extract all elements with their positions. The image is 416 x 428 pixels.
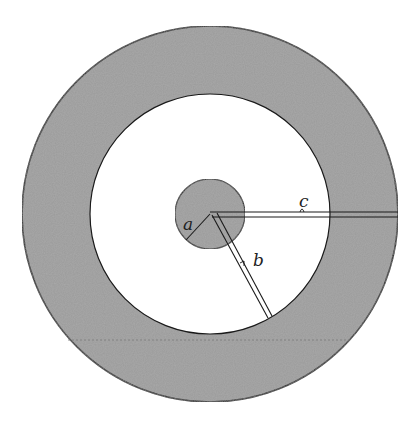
label-c: c <box>299 191 309 211</box>
concentric-cylinder-diagram: a b c <box>0 0 416 428</box>
label-a: a <box>183 214 193 234</box>
label-b: b <box>253 250 264 270</box>
